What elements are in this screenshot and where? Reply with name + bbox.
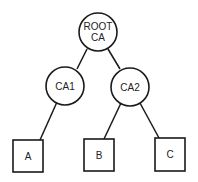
node-a-label: A <box>25 151 32 162</box>
edge-ca2-c <box>140 103 159 138</box>
node-a: A <box>13 140 43 172</box>
node-ca1: CA1 <box>46 67 84 105</box>
ca-hierarchy-diagram: ROOT CA CA1 CA2 A B C <box>0 0 198 182</box>
node-ca2-label: CA2 <box>120 82 140 93</box>
node-ca1-label: CA1 <box>55 81 75 92</box>
node-c: C <box>155 138 185 171</box>
node-root-label-line1: ROOT <box>84 21 113 32</box>
node-b-label: B <box>96 150 103 161</box>
node-ca2: CA2 <box>111 68 149 106</box>
edge-ca1-a <box>40 102 57 140</box>
edge-root-ca1 <box>77 49 87 69</box>
node-c-label: C <box>166 149 173 160</box>
edge-ca2-b <box>104 103 121 139</box>
node-b: B <box>84 139 114 171</box>
edge-root-ca2 <box>108 49 120 69</box>
node-root-label-line2: CA <box>91 32 105 43</box>
node-root-ca: ROOT CA <box>79 13 117 51</box>
